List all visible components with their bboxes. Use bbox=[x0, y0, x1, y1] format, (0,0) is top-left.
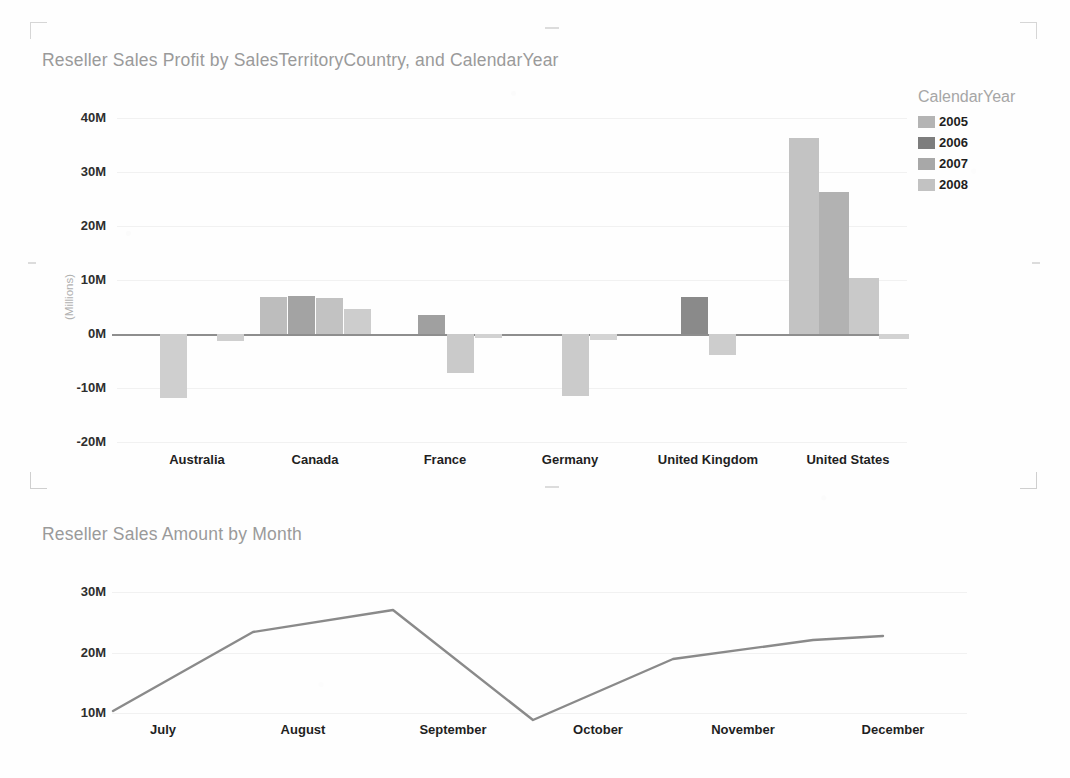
bar-y-tick-40m: 40M bbox=[40, 110, 106, 125]
line-x-tick-december: December bbox=[833, 722, 953, 737]
bar-canada-2008[interactable] bbox=[344, 309, 371, 334]
bar-x-tick-united-kingdom: United Kingdom bbox=[638, 452, 778, 467]
line-x-tick-september: September bbox=[393, 722, 513, 737]
bar-chart-title: Reseller Sales Profit by SalesTerritoryC… bbox=[42, 50, 559, 71]
bar-x-tick-australia: Australia bbox=[137, 452, 257, 467]
bar-chart-panel[interactable]: Reseller Sales Profit by SalesTerritoryC… bbox=[0, 0, 1070, 500]
line-x-tick-august: August bbox=[253, 722, 353, 737]
legend-swatch-2008-icon bbox=[918, 179, 935, 191]
bar-y-tick-neg-20m: -20M bbox=[40, 434, 106, 449]
bar-x-tick-germany: Germany bbox=[510, 452, 630, 467]
legend-item-2007[interactable]: 2007 bbox=[918, 155, 1015, 172]
legend-swatch-2007-icon bbox=[918, 158, 935, 170]
line-x-tick-november: November bbox=[683, 722, 803, 737]
legend-label-2008: 2008 bbox=[939, 177, 968, 192]
gridline-neg-10m bbox=[117, 388, 907, 389]
legend-label-2005: 2005 bbox=[939, 114, 968, 129]
legend-title: CalendarYear bbox=[918, 88, 1015, 106]
bar-y-tick-neg-10m: -10M bbox=[40, 380, 106, 395]
legend-item-2008[interactable]: 2008 bbox=[918, 176, 1015, 193]
bar-australia-2007[interactable] bbox=[160, 334, 187, 398]
bar-canada-2005[interactable] bbox=[260, 297, 287, 334]
bar-germany-2007[interactable] bbox=[562, 334, 589, 396]
bar-united-kingdom-2008[interactable] bbox=[709, 334, 736, 355]
bar-canada-2007[interactable] bbox=[316, 298, 343, 334]
line-x-tick-october: October bbox=[543, 722, 653, 737]
bar-united-states-2008[interactable] bbox=[879, 334, 909, 339]
bar-united-states-2006[interactable] bbox=[819, 192, 849, 334]
bar-chart-legend[interactable]: CalendarYear 2005 2006 2007 2008 bbox=[918, 88, 1015, 197]
bar-france-2008[interactable] bbox=[475, 334, 502, 338]
line-series-reseller-sales-amount bbox=[113, 610, 883, 720]
legend-item-2005[interactable]: 2005 bbox=[918, 113, 1015, 130]
legend-swatch-2005-icon bbox=[918, 116, 935, 128]
bar-united-states-2007[interactable] bbox=[849, 278, 879, 334]
bar-y-tick-10m: 10M bbox=[40, 272, 106, 287]
bar-united-kingdom-2006[interactable] bbox=[681, 297, 708, 334]
bar-y-tick-20m: 20M bbox=[40, 218, 106, 233]
bar-canada-2006[interactable] bbox=[288, 296, 315, 334]
legend-item-2006[interactable]: 2006 bbox=[918, 134, 1015, 151]
bar-australia-2008[interactable] bbox=[217, 334, 244, 341]
legend-label-2006: 2006 bbox=[939, 135, 968, 150]
gridline-neg-20m bbox=[117, 442, 907, 443]
report-page: Reseller Sales Profit by SalesTerritoryC… bbox=[0, 0, 1070, 778]
bar-x-tick-united-states: United States bbox=[778, 452, 918, 467]
bar-france-2006[interactable] bbox=[418, 315, 445, 334]
bar-x-tick-france: France bbox=[385, 452, 505, 467]
legend-label-2007: 2007 bbox=[939, 156, 968, 171]
line-chart-panel[interactable]: Reseller Sales Amount by Month (Millions… bbox=[0, 500, 1070, 778]
bar-germany-2008[interactable] bbox=[590, 334, 617, 340]
bar-y-tick-0m: 0M bbox=[40, 326, 106, 341]
bar-y-tick-30m: 30M bbox=[40, 164, 106, 179]
bar-x-tick-canada: Canada bbox=[255, 452, 375, 467]
gridline-40m bbox=[117, 118, 907, 119]
legend-swatch-2006-icon bbox=[918, 137, 935, 149]
bar-united-states-2005[interactable] bbox=[789, 138, 819, 334]
bar-france-2007[interactable] bbox=[447, 334, 474, 373]
line-x-tick-july: July bbox=[113, 722, 213, 737]
